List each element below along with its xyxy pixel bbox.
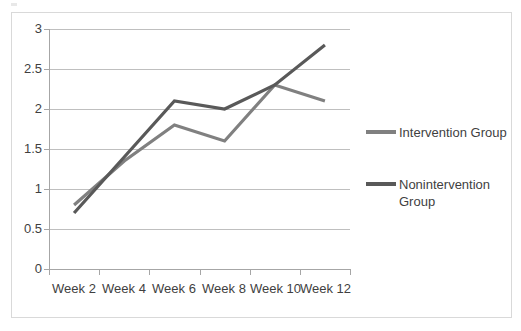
series-line-intervention [74,85,325,205]
series-line-nonintervention [74,45,325,213]
legend-label: Nonintervention Group [399,176,509,210]
legend-color-swatch [366,130,396,134]
data-series-group [0,0,521,331]
legend-label: Intervention Group [399,124,509,141]
chart-figure: 00.511.522.53 Week 2Week 4Week 6Week 8We… [0,0,521,331]
legend-color-swatch [366,182,396,186]
